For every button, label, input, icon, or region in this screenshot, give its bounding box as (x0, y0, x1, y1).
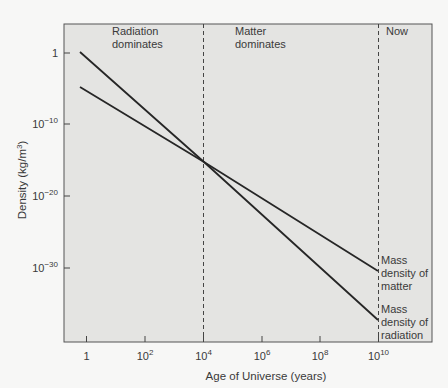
x-tick-1e4: 104 (195, 348, 212, 362)
plot-area (64, 24, 432, 342)
chart: 1 10−10 10−20 10−30 1 102 104 106 108 10… (0, 0, 448, 388)
x-tick-1e10: 1010 (368, 348, 390, 362)
x-axis-title: Age of Universe (years) (206, 370, 327, 382)
y-tick-1e-20: 10−20 (32, 188, 58, 202)
y-tick-1: 1 (52, 47, 58, 59)
x-tick-1e2: 102 (137, 348, 154, 362)
y-tick-1e-30: 10−30 (32, 260, 58, 274)
x-tick-1: 1 (83, 350, 89, 362)
y-axis-title: Density (kg/m3) (15, 141, 28, 220)
y-tick-1e-10: 10−10 (32, 116, 58, 130)
now-label: Now (386, 25, 408, 37)
x-tick-1e6: 106 (254, 348, 271, 362)
radiation-dominates-label: Radiation dominates (112, 25, 163, 50)
x-tick-1e8: 108 (312, 348, 329, 362)
